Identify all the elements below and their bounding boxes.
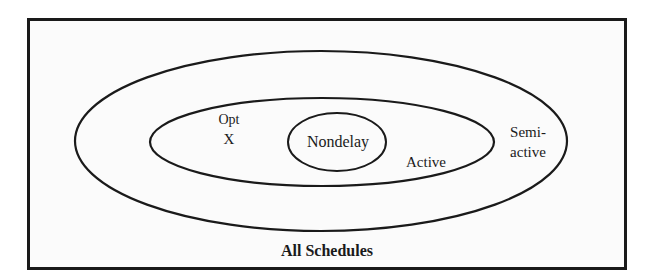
optimum-x-marker: X [209, 131, 249, 148]
semi-active-label-line2: active [498, 144, 558, 161]
semi-active-label-line1: Semi- [498, 124, 558, 141]
all-schedules-label: All Schedules [237, 242, 417, 259]
active-label: Active [396, 154, 456, 171]
optimum-label: Opt [209, 111, 249, 128]
nondelay-label: Nondelay [298, 133, 378, 150]
